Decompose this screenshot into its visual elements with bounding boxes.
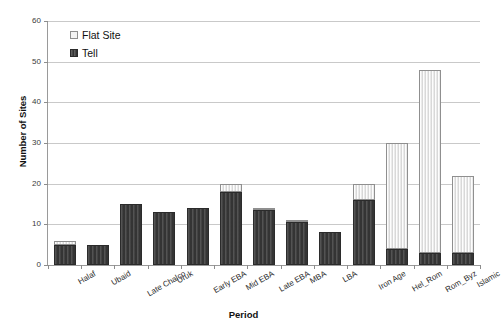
bar-segment-tell [87, 245, 109, 265]
x-axis-tick [414, 265, 415, 269]
bar-segment-flat-site [353, 184, 375, 200]
bar-group [419, 21, 441, 265]
x-axis-tick [114, 265, 115, 269]
bar-segment-tell [253, 210, 275, 265]
x-axis-tick-label: Late EBA [278, 269, 312, 294]
flat-site-swatch [70, 31, 78, 39]
bar-group [452, 21, 474, 265]
legend-entry: Tell [70, 48, 121, 59]
y-axis-tick [44, 21, 48, 22]
x-axis-tick [447, 265, 448, 269]
y-axis-tick [44, 224, 48, 225]
legend-label: Flat Site [82, 30, 121, 41]
bar-group [220, 21, 242, 265]
x-axis-tick-label: LBA [341, 269, 359, 284]
x-axis-tick [480, 265, 481, 269]
bar-segment-tell [319, 232, 341, 265]
bar-segment-tell [452, 253, 474, 265]
x-axis-tick [81, 265, 82, 269]
x-axis-tick [148, 265, 149, 269]
y-axis-tick-label: 10 [1, 220, 41, 228]
x-axis-tick [247, 265, 248, 269]
y-axis-tick [44, 102, 48, 103]
tell-swatch [70, 49, 78, 57]
bar-segment-flat-site [253, 208, 275, 210]
x-axis-tick [347, 265, 348, 269]
y-axis-tick-label: 60 [1, 17, 41, 25]
x-axis-tick-label: Rom_Byz [444, 269, 479, 294]
bar-group [386, 21, 408, 265]
chart-legend: Flat SiteTell [70, 30, 121, 65]
bar-segment-tell [220, 192, 242, 265]
bar-segment-flat-site [452, 176, 474, 253]
bar-group [353, 21, 375, 265]
bar-segment-tell [54, 245, 76, 265]
y-axis-tick-label: 20 [1, 180, 41, 188]
bar-segment-tell [386, 249, 408, 265]
bar-group [253, 21, 275, 265]
bar-segment-flat-site [419, 70, 441, 253]
bar-segment-flat-site [386, 143, 408, 249]
y-axis-tick-label: 30 [1, 139, 41, 147]
x-axis-tick-label: Hel_Rom [410, 269, 443, 293]
x-axis-tick-label: Mid EBA [244, 269, 275, 292]
bar-segment-tell [353, 200, 375, 265]
x-axis-tick-label: MBA [309, 269, 329, 285]
bar-segment-flat-site [286, 220, 308, 222]
x-axis-title: Period [0, 309, 487, 320]
x-axis-tick-label: Iron Age [377, 269, 407, 292]
bar-group [319, 21, 341, 265]
bar-group [120, 21, 142, 265]
x-axis-tick [48, 265, 49, 269]
x-axis-tick-label: Ubaid [110, 269, 133, 287]
x-axis-tick [380, 265, 381, 269]
legend-label: Tell [82, 48, 98, 59]
bar-group [286, 21, 308, 265]
bar-group [187, 21, 209, 265]
x-axis-tick-label: Early EBA [211, 269, 247, 295]
bar-segment-flat-site [54, 241, 76, 245]
y-axis-tick-label: 40 [1, 98, 41, 106]
bar-segment-tell [187, 208, 209, 265]
x-axis-tick-label: Halaf [76, 269, 97, 286]
x-axis-tick [214, 265, 215, 269]
y-axis-tick [44, 143, 48, 144]
y-axis-tick-label: 50 [1, 58, 41, 66]
x-axis-tick [314, 265, 315, 269]
x-axis-tick [281, 265, 282, 269]
y-axis-tick [44, 184, 48, 185]
bar-segment-tell [153, 212, 175, 265]
bar-group [153, 21, 175, 265]
bar-segment-flat-site [220, 184, 242, 192]
y-axis-tick-label: 0 [1, 261, 41, 269]
bar-segment-tell [120, 204, 142, 265]
y-axis-tick [44, 62, 48, 63]
x-axis-tick-label: Islamic [476, 269, 502, 289]
bar-segment-tell [286, 222, 308, 265]
bar-segment-tell [419, 253, 441, 265]
legend-entry: Flat Site [70, 30, 121, 41]
